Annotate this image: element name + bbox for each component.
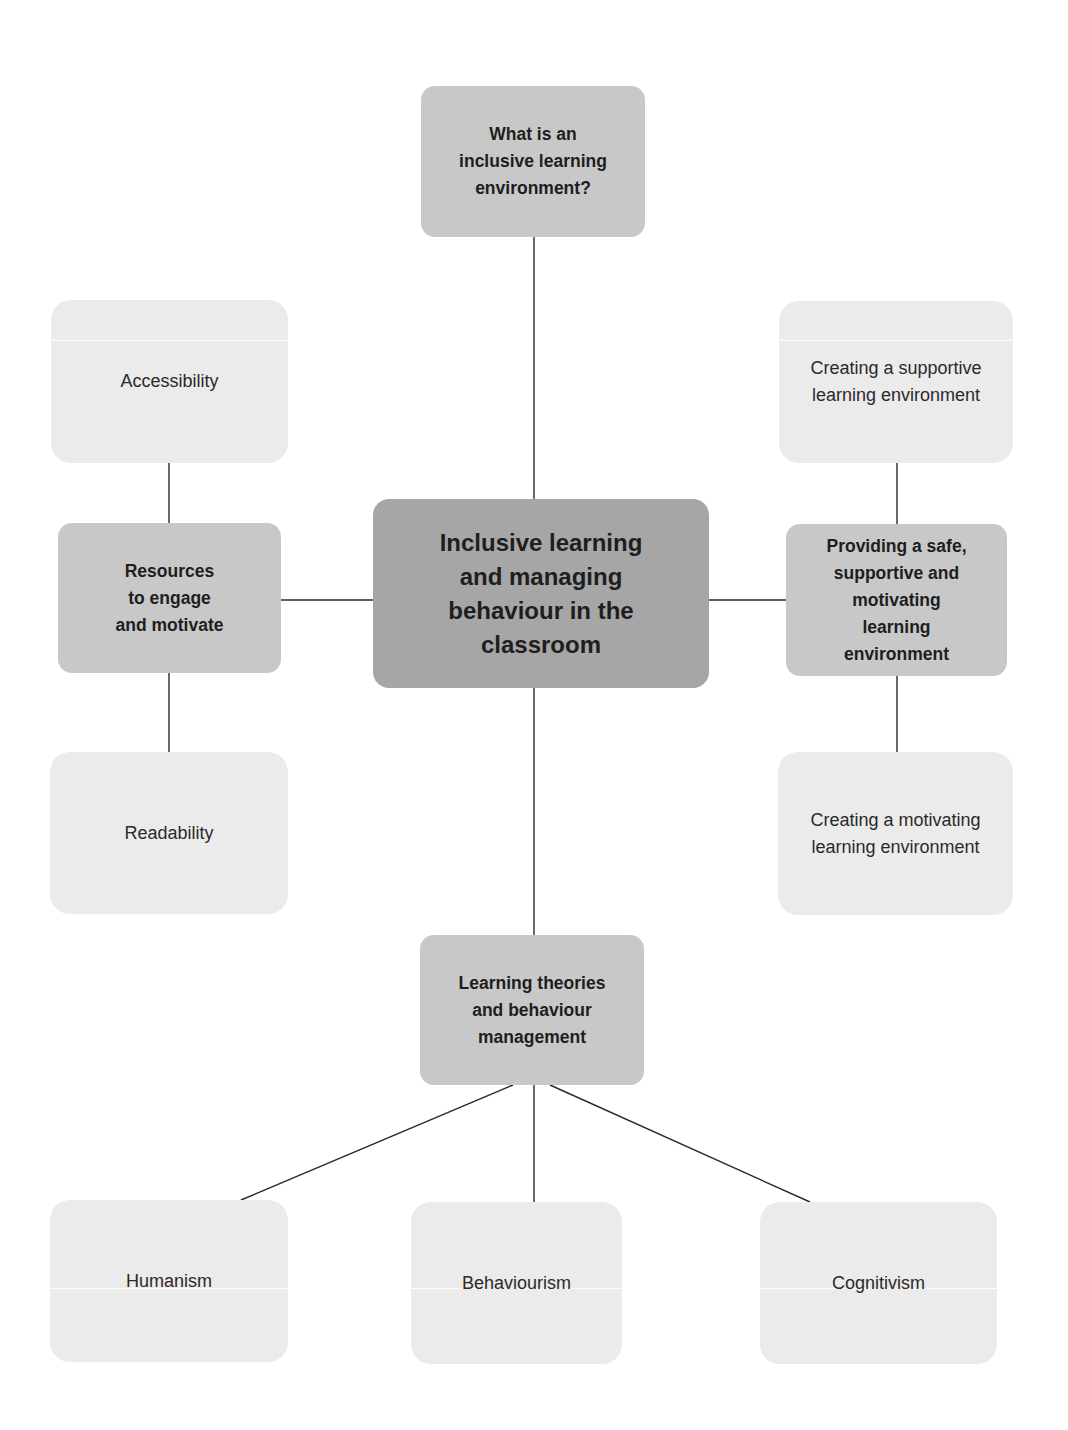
topic-line: What is an bbox=[459, 121, 607, 148]
topic-line: management bbox=[459, 1024, 606, 1051]
central-topic-line: Inclusive learning bbox=[440, 526, 643, 560]
topic-line: and motivate bbox=[116, 612, 224, 639]
topic-line: Resources bbox=[116, 558, 224, 585]
scan-artifact bbox=[779, 340, 1013, 341]
subtopic-label: Cognitivism bbox=[832, 1270, 925, 1297]
central-topic-line: and managing bbox=[440, 560, 643, 594]
subtopic-label: Readability bbox=[124, 820, 213, 847]
subtopic-readability: Readability bbox=[50, 752, 288, 914]
topic-line: Learning theories bbox=[459, 970, 606, 997]
central-topic: Inclusive learning and managing behaviou… bbox=[373, 499, 709, 688]
subtopic-supportive-environment: Creating a supportive learning environme… bbox=[779, 301, 1013, 463]
scan-artifact bbox=[51, 340, 288, 341]
topic-what-is-inclusive-environment: What is an inclusive learning environmen… bbox=[421, 86, 645, 237]
subtopic-line: learning environment bbox=[810, 382, 981, 409]
topic-line: and behaviour bbox=[459, 997, 606, 1024]
mind-map-diagram: What is an inclusive learning environmen… bbox=[0, 0, 1068, 1430]
topic-line: Providing a safe, bbox=[826, 533, 966, 560]
subtopic-line: learning environment bbox=[810, 834, 980, 861]
subtopic-motivating-environment: Creating a motivating learning environme… bbox=[778, 752, 1013, 915]
topic-line: supportive and bbox=[826, 560, 966, 587]
subtopic-cognitivism: Cognitivism bbox=[760, 1202, 997, 1364]
central-topic-line: classroom bbox=[440, 628, 643, 662]
subtopic-line: Creating a motivating bbox=[810, 807, 980, 834]
subtopic-behaviourism: Behaviourism bbox=[411, 1202, 622, 1364]
topic-line: environment bbox=[826, 641, 966, 668]
central-topic-line: behaviour in the bbox=[440, 594, 643, 628]
subtopic-line: Creating a supportive bbox=[810, 355, 981, 382]
topic-line: to engage bbox=[116, 585, 224, 612]
subtopic-label: Behaviourism bbox=[462, 1270, 571, 1297]
connector-bottom-humanism bbox=[241, 1085, 513, 1200]
topic-line: inclusive learning bbox=[459, 148, 607, 175]
subtopic-accessibility: Accessibility bbox=[51, 300, 288, 463]
topic-line: motivating bbox=[826, 587, 966, 614]
topic-line: environment? bbox=[459, 175, 607, 202]
topic-learning-theories: Learning theories and behaviour manageme… bbox=[420, 935, 644, 1085]
topic-safe-supportive-motivating: Providing a safe, supportive and motivat… bbox=[786, 524, 1007, 676]
subtopic-label: Humanism bbox=[126, 1268, 212, 1295]
subtopic-humanism: Humanism bbox=[50, 1200, 288, 1362]
topic-line: learning bbox=[826, 614, 966, 641]
connector-bottom-cognitivism bbox=[550, 1085, 810, 1202]
topic-resources-engage-motivate: Resources to engage and motivate bbox=[58, 523, 281, 673]
subtopic-label: Accessibility bbox=[120, 368, 218, 395]
